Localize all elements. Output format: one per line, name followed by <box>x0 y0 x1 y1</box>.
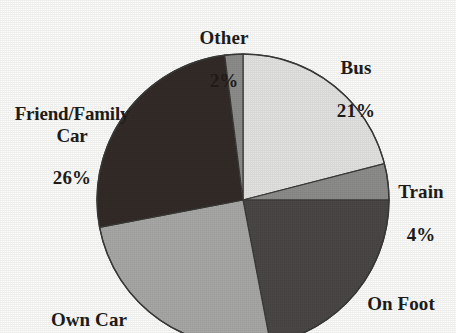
slice-label-other-name: Other <box>163 27 285 48</box>
slice-label-friend-family-car: Friend/Family Car 26% <box>2 82 142 210</box>
slice-label-bus-name: Bus <box>300 57 412 78</box>
slice-label-own-car-name: Own Car <box>24 309 154 330</box>
slice-label-other: Other 2% <box>163 6 285 112</box>
slice-label-bus-value: 21% <box>300 100 412 121</box>
pie-chart-figure: Other 2% Bus 21% Train 4% On Foot 22% Ow… <box>0 0 456 333</box>
slice-label-train-name: Train <box>386 181 456 202</box>
slice-label-friend-family-car-name: Friend/Family Car <box>2 103 142 146</box>
slice-label-train: Train 4% <box>386 160 456 266</box>
slice-label-friend-family-car-value: 26% <box>2 167 142 188</box>
slice-label-on-foot-name: On Foot <box>346 293 456 314</box>
slice-label-other-value: 2% <box>163 70 285 91</box>
slice-label-on-foot: On Foot 22% <box>346 272 456 333</box>
slice-label-own-car: Own Car 25% <box>24 288 154 333</box>
slice-label-train-value: 4% <box>386 224 456 245</box>
slice-label-bus: Bus 21% <box>300 36 412 142</box>
